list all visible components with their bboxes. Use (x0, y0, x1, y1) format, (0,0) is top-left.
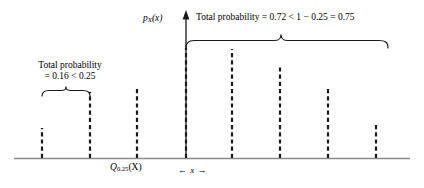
pmf-quantile-figure: Total probability = 0.16 < 0.25 Total pr… (0, 0, 424, 188)
left-bracket-caption: Total probability = 0.16 < 0.25 (14, 60, 126, 82)
top-bracket-caption: Total probability = 0.72 < 1 − 0.25 = 0.… (196, 12, 355, 23)
left-bracket-caption-line2: = 0.16 < 0.25 (14, 71, 126, 82)
quantile-label: Q0.25(X) (110, 162, 142, 173)
quantile-label-arg: (X) (128, 162, 141, 172)
pmf-axis-label: pX(x) (143, 13, 162, 25)
quantile-label-base: Q (110, 162, 117, 172)
left-bracket-caption-line1: Total probability (14, 60, 126, 71)
top-brace (186, 35, 388, 49)
plot-canvas (0, 0, 424, 188)
quantile-label-subscript: 0.25 (117, 165, 129, 172)
x-axis-label: ← x → (178, 165, 207, 176)
left-brace (42, 87, 90, 97)
pmf-axis-label-arg: (x) (152, 13, 163, 23)
